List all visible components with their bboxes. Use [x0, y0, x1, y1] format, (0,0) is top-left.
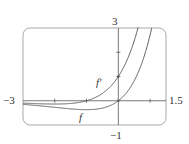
f-curve — [23, 28, 152, 110]
y-min-label: −1 — [110, 130, 122, 141]
plot-frame — [23, 28, 166, 125]
f-curve-label: f — [79, 112, 82, 123]
axes — [23, 28, 166, 125]
origin-dot — [117, 100, 119, 102]
x-min-label: −3 — [3, 95, 15, 106]
y-max-label: 3 — [112, 16, 118, 27]
f-prime-intercept-dot — [117, 75, 119, 77]
x-max-label: 1.5 — [169, 95, 183, 106]
curves — [23, 27, 152, 109]
function-plot — [0, 0, 189, 144]
f-prime-curve-label: f′ — [96, 77, 101, 88]
f-prime-curve — [23, 27, 138, 104]
